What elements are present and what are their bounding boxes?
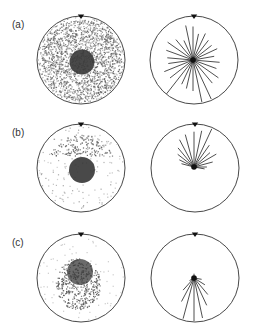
- scatter-point: [68, 149, 69, 150]
- scatter-point: [112, 47, 113, 48]
- scatter-point: [53, 37, 54, 38]
- scatter-point: [112, 38, 113, 39]
- scatter-point: [73, 89, 74, 90]
- scatter-point: [53, 88, 54, 89]
- scatter-point: [66, 166, 67, 167]
- scatter-point: [119, 171, 120, 172]
- scatter-point: [112, 33, 113, 34]
- scatter-point: [80, 38, 81, 39]
- scatter-point: [56, 50, 57, 51]
- scatter-point: [88, 101, 89, 102]
- scatter-point: [59, 66, 60, 67]
- scatter-point: [101, 31, 102, 32]
- scatter-point: [116, 183, 117, 184]
- scatter-point: [79, 201, 80, 202]
- scatter-point: [94, 39, 95, 40]
- scatter-point: [120, 292, 121, 293]
- scatter-point: [88, 25, 89, 26]
- scatter-point: [105, 68, 106, 69]
- scatter-point: [62, 61, 63, 62]
- scatter-point: [95, 169, 96, 170]
- scatter-point: [120, 75, 121, 76]
- scatter-point: [98, 197, 99, 198]
- scatter-point: [97, 75, 98, 76]
- scatter-point: [103, 88, 104, 89]
- scatter-point: [65, 66, 66, 67]
- scatter-point: [99, 148, 100, 149]
- scatter-point: [113, 58, 114, 59]
- scatter-point: [94, 78, 95, 79]
- scatter-point: [117, 62, 118, 63]
- scatter-point: [97, 295, 98, 296]
- scatter-point: [95, 152, 96, 153]
- scatter-point: [76, 81, 77, 82]
- scatter-point: [44, 80, 45, 81]
- scatter-point: [47, 35, 48, 36]
- scatter-point: [101, 204, 102, 205]
- scatter-point: [110, 77, 111, 78]
- scatter-point: [42, 58, 43, 59]
- scatter-point: [94, 20, 95, 21]
- scatter-point: [97, 40, 98, 41]
- scatter-point: [84, 284, 85, 285]
- scatter-point: [102, 90, 103, 91]
- scatter-point: [48, 49, 49, 50]
- scatter-point: [78, 83, 79, 84]
- scatter-point: [70, 74, 71, 75]
- scatter-point: [78, 191, 79, 192]
- scatter-point: [63, 290, 64, 291]
- scatter-point: [49, 154, 50, 155]
- scatter-point: [78, 149, 79, 150]
- scatter-point: [83, 94, 84, 95]
- scatter-point: [51, 68, 52, 69]
- scatter-point: [54, 153, 55, 154]
- scatter-point: [59, 278, 60, 279]
- scatter-point: [57, 33, 58, 34]
- scatter-point: [83, 85, 84, 86]
- scatter-point: [52, 84, 53, 85]
- scatter-point: [82, 21, 83, 22]
- scatter-point: [58, 73, 59, 74]
- scatter-point: [45, 52, 46, 53]
- scatter-point: [77, 35, 78, 36]
- scatter-point: [95, 245, 96, 246]
- scatter-point: [65, 83, 66, 84]
- scatter-point: [97, 33, 98, 34]
- scatter-point: [83, 147, 84, 148]
- scatter-point: [68, 43, 69, 44]
- scatter-point: [104, 71, 105, 72]
- scatter-point: [48, 52, 49, 53]
- scatter-point: [79, 22, 80, 23]
- scatter-point: [69, 72, 70, 73]
- damage-map-a: [37, 15, 125, 105]
- scatter-point: [89, 288, 90, 289]
- scatter-point: [71, 284, 72, 285]
- scatter-point: [86, 32, 87, 33]
- scatter-point: [103, 37, 104, 38]
- scatter-point: [84, 80, 85, 81]
- scatter-point: [100, 51, 101, 52]
- scatter-point: [85, 303, 86, 304]
- scatter-point: [63, 57, 64, 58]
- scatter-point: [66, 69, 67, 70]
- panel-b: (b): [12, 123, 239, 213]
- scatter-point: [62, 38, 63, 39]
- scatter-point: [99, 35, 100, 36]
- scatter-point: [89, 40, 90, 41]
- scatter-point: [89, 36, 90, 37]
- scatter-point: [94, 65, 95, 66]
- scatter-point: [95, 155, 96, 156]
- scatter-point: [82, 143, 83, 144]
- scatter-point: [118, 50, 119, 51]
- scatter-point: [97, 272, 98, 273]
- scatter-point: [61, 56, 62, 57]
- scatter-point: [99, 200, 100, 201]
- scatter-point: [62, 40, 63, 41]
- scatter-point: [55, 51, 56, 52]
- scatter-point: [97, 66, 98, 67]
- scatter-point: [105, 91, 106, 92]
- scatter-point: [83, 20, 84, 21]
- scatter-point: [105, 57, 106, 58]
- scatter-point: [55, 269, 56, 270]
- scatter-point: [41, 74, 42, 75]
